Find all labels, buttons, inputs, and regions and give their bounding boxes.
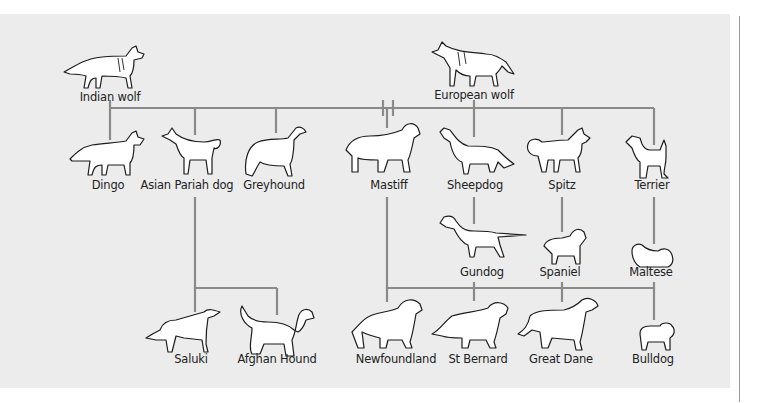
dingo-illustration — [70, 131, 144, 175]
label-sheepdog: Sheepdog — [447, 178, 503, 192]
label-european-wolf: European wolf — [434, 88, 514, 102]
label-gundog: Gundog — [460, 265, 504, 279]
label-dingo: Dingo — [92, 178, 125, 192]
label-indian-wolf: Indian wolf — [80, 90, 141, 104]
indian-wolf-illustration — [64, 46, 144, 88]
greyhound-illustration — [246, 127, 307, 176]
mastiff-illustration — [346, 124, 420, 172]
label-saluki: Saluki — [174, 352, 208, 366]
gundog-illustration — [440, 216, 526, 257]
label-terrier: Terrier — [635, 178, 670, 192]
label-maltese: Maltese — [629, 265, 672, 279]
st-bernard-illustration — [432, 303, 508, 348]
label-spaniel: Spaniel — [539, 265, 580, 279]
newfoundland-illustration — [352, 300, 422, 348]
ancestry-tree — [0, 0, 757, 403]
label-asian-pariah-dog: Asian Pariah dog — [141, 178, 234, 192]
spaniel-illustration — [544, 229, 586, 264]
bulldog-illustration — [640, 323, 674, 350]
label-st-bernard: St Bernard — [448, 352, 507, 366]
connector-lines — [110, 100, 654, 320]
european-wolf-illustration — [432, 42, 514, 86]
saluki-illustration — [146, 310, 220, 352]
sheepdog-illustration — [440, 128, 514, 174]
label-newfoundland: Newfoundland — [356, 352, 436, 366]
spitz-illustration — [527, 128, 590, 172]
label-afghan-hound: Afghan Hound — [237, 352, 316, 366]
label-spitz: Spitz — [548, 178, 575, 192]
terrier-illustration — [626, 136, 668, 178]
asian-pariah-dog-illustration — [162, 128, 220, 174]
label-greyhound: Greyhound — [243, 178, 305, 192]
maltese-illustration — [632, 244, 673, 267]
label-bulldog: Bulldog — [632, 352, 674, 366]
label-mastiff: Mastiff — [370, 178, 407, 192]
great-dane-illustration — [518, 298, 598, 350]
label-great-dane: Great Dane — [529, 352, 593, 366]
